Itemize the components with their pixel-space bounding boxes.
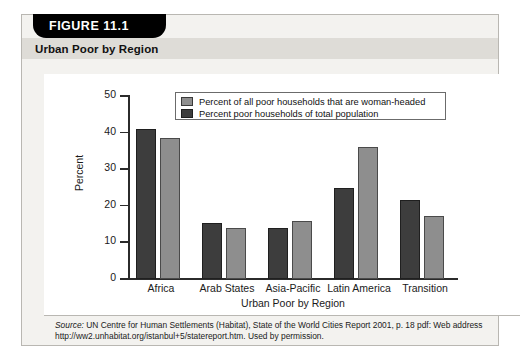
y-axis-tick (120, 95, 128, 97)
bar-woman-headed (160, 138, 180, 279)
legend-item-woman-headed: Percent of all poor households that are … (181, 96, 441, 107)
y-axis-tick-label: 30 (90, 161, 116, 173)
legend-label-total-population: Percent poor households of total populat… (199, 109, 378, 119)
legend-swatch-dark-icon (181, 109, 193, 118)
figure-card: 01020304050 Percent AfricaArab StatesAsi… (21, 14, 499, 346)
y-axis-tick-label: 10 (90, 234, 116, 246)
chart-legend: Percent of all poor households that are … (175, 92, 446, 120)
y-axis-tick (120, 278, 128, 280)
source-note: Source: UN Centre for Human Settlements … (55, 320, 510, 342)
legend-swatch-light-icon (181, 97, 193, 106)
x-axis-tick-label: Transition (392, 282, 458, 294)
bar-woman-headed (358, 147, 378, 279)
x-axis-tick-label: Africa (128, 282, 194, 294)
bar-total-population (400, 200, 420, 279)
x-axis-label: Urban Poor by Region (128, 297, 458, 309)
legend-item-total-population: Percent poor households of total populat… (181, 108, 441, 119)
x-axis-tick-label: Asia-Pacific (260, 282, 326, 294)
y-axis-tick (120, 205, 128, 207)
figure-number-tab: FIGURE 11.1 (33, 14, 166, 38)
figure-title-band: Urban Poor by Region (22, 38, 498, 59)
source-lead: Source: (55, 320, 84, 330)
y-axis-tick (120, 241, 128, 243)
figure-number-label: FIGURE 11.1 (49, 19, 129, 33)
source-divider (44, 315, 520, 316)
legend-label-woman-headed: Percent of all poor households that are … (199, 97, 425, 107)
bar-total-population (202, 223, 222, 279)
bar-woman-headed (292, 221, 312, 279)
y-axis-label: Percent (73, 133, 85, 213)
bar-total-population (334, 188, 354, 280)
y-axis-tick-label: 20 (90, 198, 116, 210)
y-axis-tick-label: 40 (90, 125, 116, 137)
source-text: UN Centre for Human Settlements (Habitat… (55, 320, 483, 341)
y-axis-tick-label: 50 (90, 88, 116, 100)
x-axis-tick-label: Arab States (194, 282, 260, 294)
bar-total-population (136, 129, 156, 279)
bar-woman-headed (226, 228, 246, 279)
y-axis-tick-label: 0 (90, 271, 116, 283)
bar-total-population (268, 228, 288, 279)
figure-title: Urban Poor by Region (35, 43, 158, 55)
y-axis-tick (120, 168, 128, 170)
bar-woman-headed (424, 216, 444, 279)
x-axis-tick-label: Latin America (326, 282, 392, 294)
y-axis-tick (120, 132, 128, 134)
chart-plot-panel: 01020304050 Percent AfricaArab StatesAsi… (44, 74, 520, 315)
